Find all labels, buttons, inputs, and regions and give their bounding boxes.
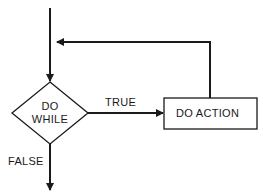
action-label: DO ACTION xyxy=(176,107,239,119)
loop-back-arrow xyxy=(57,42,210,98)
decision-label: DO WHILE xyxy=(26,100,74,126)
true-label: TRUE xyxy=(105,96,136,108)
decision-label-line2: WHILE xyxy=(26,113,74,126)
false-label: FALSE xyxy=(8,155,44,167)
decision-label-line1: DO xyxy=(26,100,74,113)
